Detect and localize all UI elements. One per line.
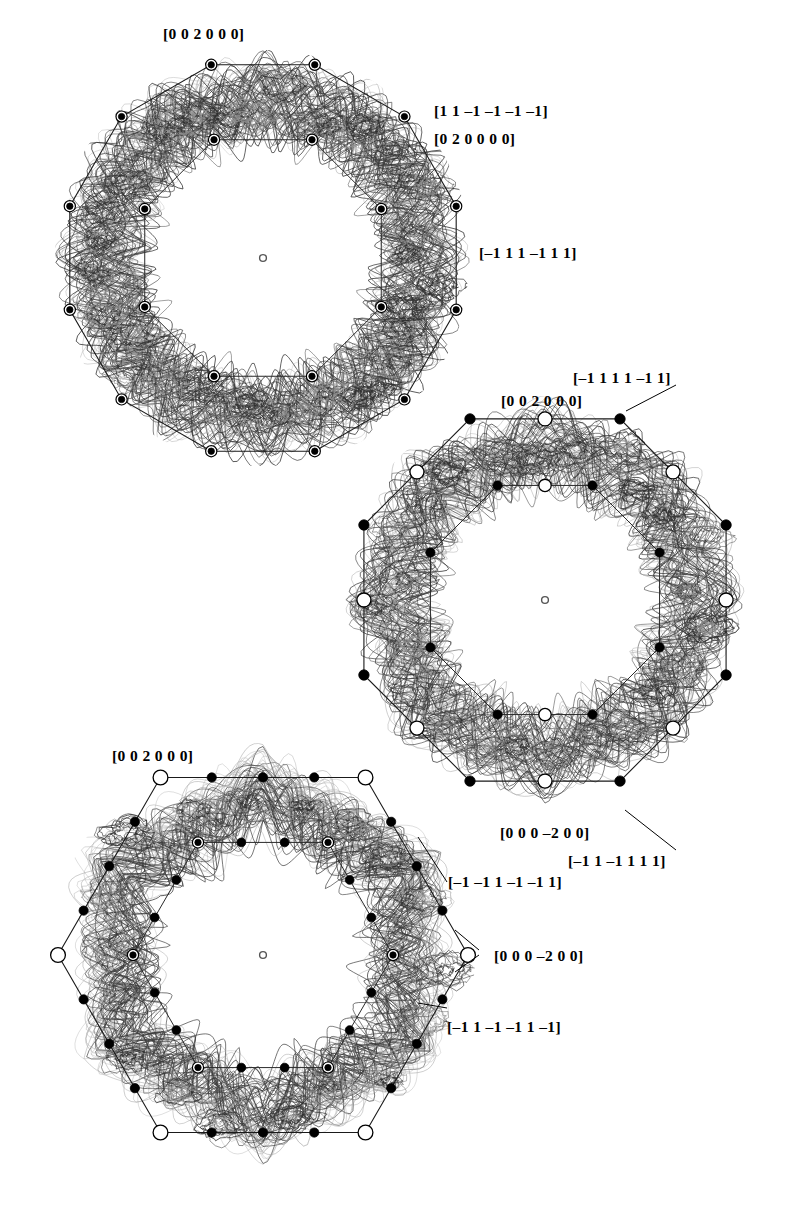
label-top-002000: [0 0 2 0 0 0]	[163, 26, 244, 42]
panel-top-gamma-point	[260, 255, 267, 262]
label-mid-m11m1111: [–1 1 –1 1 1 1]	[568, 853, 666, 869]
panel-bottom-gamma-point	[260, 952, 267, 959]
label-bot-m11m1m11m1: [–1 1 –1 –1 1 –1]	[447, 1019, 561, 1035]
label-top-m111m111: [–1 1 1 –1 1 1]	[479, 245, 577, 261]
figure-canvas	[0, 0, 785, 1210]
label-bot-m1m11m1m11: [–1 –1 1 –1 –1 1]	[448, 874, 562, 890]
panel-middle-gamma-point	[542, 597, 549, 604]
label-bot-002000: [0 0 2 0 0 0]	[112, 748, 193, 764]
label-mid-002000: [0 0 2 0 0 0]	[501, 393, 582, 409]
label-mid-m1111m11: [–1 1 1 1 –1 1]	[573, 370, 671, 386]
label-bot-000m200: [0 0 0 –2 0 0]	[494, 948, 584, 964]
label-top-020000: [0 2 0 0 0 0]	[434, 131, 515, 147]
label-top-11m1m1m1m1: [1 1 –1 –1 –1 –1]	[434, 103, 548, 119]
label-mid-000m200: [0 0 0 –2 0 0]	[500, 825, 590, 841]
